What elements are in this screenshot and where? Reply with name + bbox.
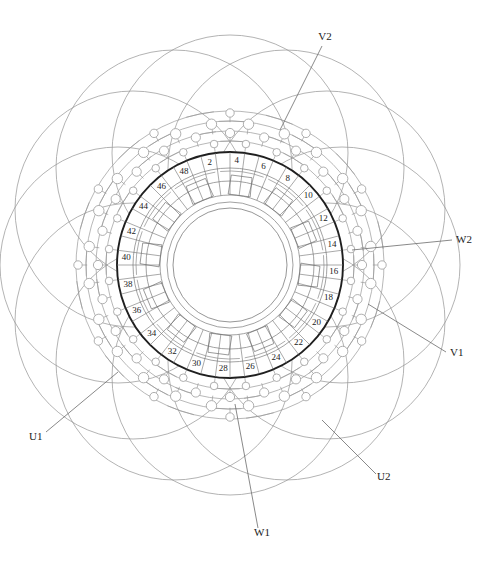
winding-node xyxy=(206,401,216,411)
winding-node xyxy=(366,278,376,288)
winding-node xyxy=(340,326,349,335)
winding-node xyxy=(94,205,104,215)
winding-node xyxy=(356,314,366,324)
winding-node xyxy=(152,164,160,172)
winding-node xyxy=(311,147,321,157)
winding-node xyxy=(302,129,310,137)
end-winding-arc xyxy=(175,387,268,399)
winding-node xyxy=(378,261,386,269)
winding-node xyxy=(170,129,180,139)
winding-node xyxy=(94,337,102,345)
winding-node xyxy=(291,146,300,155)
winding-node xyxy=(319,167,328,176)
winding-node xyxy=(291,375,300,384)
node-stub xyxy=(299,171,302,175)
winding-node xyxy=(210,382,218,390)
slot-number: 36 xyxy=(132,305,142,315)
winding-node xyxy=(323,187,331,195)
winding-node xyxy=(105,245,113,253)
winding-node xyxy=(170,391,180,401)
node-stub xyxy=(262,142,263,147)
winding-node xyxy=(132,354,141,363)
winding-node xyxy=(353,295,362,304)
end-winding-arc xyxy=(352,227,364,320)
node-stub xyxy=(215,148,216,153)
winding-node xyxy=(260,388,269,397)
winding-node xyxy=(132,167,141,176)
slot-number: 48 xyxy=(180,166,190,176)
slot-number: 32 xyxy=(168,346,177,356)
slot-number: 8 xyxy=(286,173,291,183)
node-stub xyxy=(107,232,112,233)
slot-number: 42 xyxy=(127,226,136,236)
winding-node xyxy=(113,308,121,316)
terminal-label-u2: U2 xyxy=(377,470,390,482)
winding-node xyxy=(191,388,200,397)
node-stub xyxy=(348,297,353,298)
slot-number: 46 xyxy=(157,181,167,191)
winding-node xyxy=(279,391,289,401)
winding-node xyxy=(300,164,308,172)
winding-node xyxy=(191,133,200,142)
winding-node xyxy=(206,119,216,129)
winding-node xyxy=(311,372,321,382)
slot-number: 2 xyxy=(207,157,212,167)
winding-node xyxy=(159,146,168,155)
winding-node xyxy=(98,226,107,235)
winding-node xyxy=(159,375,168,384)
winding-node xyxy=(129,335,137,343)
node-stub xyxy=(361,247,366,248)
node-stub xyxy=(215,377,216,382)
winding-node xyxy=(347,277,355,285)
winding-node xyxy=(243,119,253,129)
node-stub xyxy=(361,282,366,283)
node-stub xyxy=(245,377,246,382)
winding-node xyxy=(225,392,234,401)
figure-canvas: 2468101214161820222426283032343638404244… xyxy=(0,0,500,564)
winding-node xyxy=(84,278,94,288)
winding-node xyxy=(98,295,107,304)
node-stub xyxy=(342,280,347,281)
stator-bore-circle xyxy=(173,208,287,322)
winding-node xyxy=(347,245,355,253)
slot-number: 14 xyxy=(328,239,338,249)
winding-node xyxy=(319,354,328,363)
winding-node xyxy=(180,148,188,156)
terminal-label-v1: V1 xyxy=(450,346,463,358)
node-stub xyxy=(197,383,198,388)
slot-number: 30 xyxy=(192,358,202,368)
winding-node xyxy=(353,226,362,235)
winding-node xyxy=(225,128,234,137)
slot-number: 44 xyxy=(139,201,149,211)
node-stub xyxy=(113,250,118,251)
node-stub xyxy=(342,250,347,251)
winding-node xyxy=(94,185,102,193)
winding-node xyxy=(111,194,120,203)
winding-node xyxy=(273,374,281,382)
slot-number: 10 xyxy=(304,190,314,200)
winding-node xyxy=(93,260,102,269)
node-stub xyxy=(245,148,246,153)
winding-node xyxy=(112,346,122,356)
winding-node xyxy=(74,261,82,269)
winding-node xyxy=(302,392,310,400)
terminal-leader-w1 xyxy=(235,404,258,528)
stator-core-layer xyxy=(117,152,343,378)
node-stub xyxy=(136,193,140,196)
winding-node xyxy=(366,241,376,251)
winding-node xyxy=(152,358,160,366)
winding-node xyxy=(279,129,289,139)
node-stub xyxy=(136,334,140,337)
winding-node xyxy=(339,308,347,316)
end-winding-arc xyxy=(192,131,285,143)
winding-node xyxy=(138,372,148,382)
winding-node xyxy=(84,241,94,251)
slot-number: 28 xyxy=(219,363,229,373)
winding-node xyxy=(273,148,281,156)
winding-node xyxy=(180,374,188,382)
slot-number: 40 xyxy=(122,252,132,262)
winding-node xyxy=(113,215,121,223)
slot-number: 6 xyxy=(261,161,266,171)
winding-node xyxy=(243,401,253,411)
node-stub xyxy=(113,280,118,281)
